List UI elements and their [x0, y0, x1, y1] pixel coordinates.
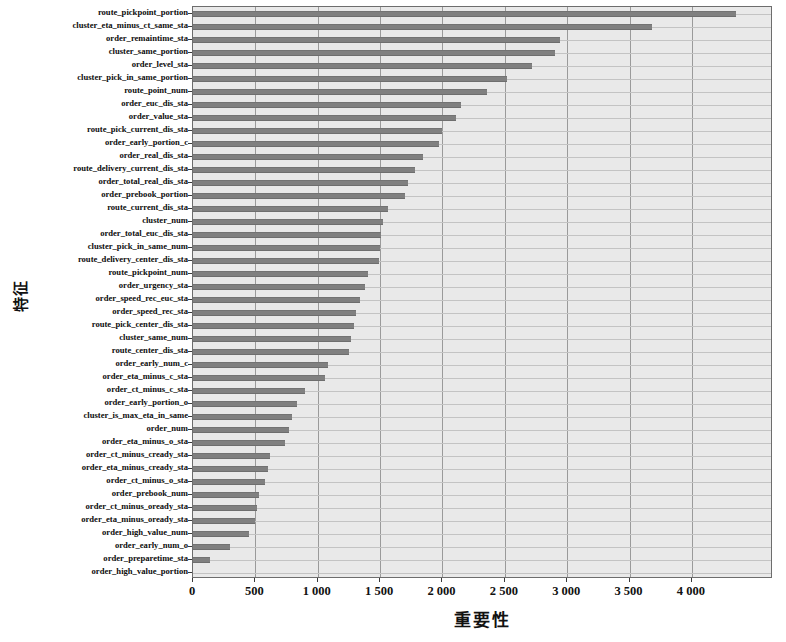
bar: [193, 297, 360, 303]
bar: [193, 453, 270, 459]
y-axis-tick-mark: [188, 260, 192, 261]
y-axis-tick-label: order_level_sta: [28, 60, 188, 69]
x-axis-tick-label: 1 000: [303, 584, 331, 599]
x-axis-tick-label: 1 500: [365, 584, 393, 599]
y-axis-tick-label: order_preparetime_sta: [28, 554, 188, 563]
y-axis-tick-label: route_delivery_current_dis_sta: [28, 164, 188, 173]
bar: [193, 206, 388, 212]
y-axis-tick-mark: [188, 78, 192, 79]
y-axis-tick-label: route_center_dis_sta: [28, 346, 188, 355]
y-axis-tick-mark: [188, 442, 192, 443]
x-axis-tick-mark: [317, 578, 318, 582]
x-axis-ticks: 05001 0001 5002 0002 5003 0003 5004 000: [192, 578, 772, 604]
y-axis-tick-label: cluster_same_num: [28, 333, 188, 342]
y-axis-tick-label: cluster_is_max_eta_in_same: [28, 411, 188, 420]
y-axis-tick-mark: [188, 481, 192, 482]
y-axis-tick-label: cluster_eta_minus_ct_same_sta: [28, 21, 188, 30]
y-axis-tick-mark: [188, 364, 192, 365]
y-axis-tick-label: order_early_num_o: [28, 541, 188, 550]
x-axis-tick-mark: [441, 578, 442, 582]
bar: [193, 11, 736, 17]
y-axis-tick-mark: [188, 52, 192, 53]
bar: [193, 128, 442, 134]
bar: [193, 76, 507, 82]
bar: [193, 37, 560, 43]
y-axis-tick-mark: [188, 195, 192, 196]
bar: [193, 323, 354, 329]
x-axis-tick-label: 0: [189, 584, 195, 599]
bar: [193, 180, 408, 186]
bar: [193, 167, 415, 173]
bar: [193, 310, 356, 316]
x-axis-tick-mark: [192, 578, 193, 582]
x-axis-tick-label: 3 500: [614, 584, 642, 599]
bar: [193, 427, 289, 433]
x-axis-tick-mark: [629, 578, 630, 582]
y-axis-tick-label: order_prebook_portion: [28, 190, 188, 199]
y-axis-tick-label: route_pickpoint_num: [28, 268, 188, 277]
bar: [193, 258, 379, 264]
y-axis-tick-mark: [188, 494, 192, 495]
bar: [193, 336, 351, 342]
bar: [193, 115, 456, 121]
y-axis-tick-label: route_pickpoint_portion: [28, 8, 188, 17]
bar: [193, 193, 405, 199]
bar: [193, 362, 328, 368]
y-axis-tick-mark: [188, 325, 192, 326]
x-axis-tick-label: 2 500: [490, 584, 518, 599]
y-axis-tick-label: order_eta_minus_cready_sta: [28, 463, 188, 472]
bar: [193, 479, 265, 485]
horizontal-gridline: [193, 547, 771, 548]
y-axis-tick-mark: [188, 26, 192, 27]
bar: [193, 440, 285, 446]
y-axis-tick-mark: [188, 286, 192, 287]
bar: [193, 518, 255, 524]
y-axis-tick-label: route_pick_center_dis_sta: [28, 320, 188, 329]
horizontal-gridline: [193, 456, 771, 457]
bar: [193, 531, 249, 537]
bar: [193, 284, 365, 290]
x-axis-tick-mark: [379, 578, 380, 582]
y-axis-tick-label: route_current_dis_sta: [28, 203, 188, 212]
y-axis-tick-label: order_ct_minus_c_sta: [28, 385, 188, 394]
bar: [193, 24, 652, 30]
y-axis-tick-mark: [188, 351, 192, 352]
y-axis-tick-mark: [188, 130, 192, 131]
y-axis-tick-mark: [188, 65, 192, 66]
y-axis-tick-label: order_eta_minus_oready_sta: [28, 515, 188, 524]
y-axis-tick-label: order_eta_minus_o_sta: [28, 437, 188, 446]
y-axis-title-text: 特征: [9, 279, 30, 311]
y-axis-tick-mark: [188, 247, 192, 248]
x-axis-title: 重要性: [192, 606, 772, 631]
y-axis-tick-label: order_eta_minus_c_sta: [28, 372, 188, 381]
y-axis-tick-mark: [188, 416, 192, 417]
bar: [193, 401, 297, 407]
y-axis-tick-label: order_high_value_num: [28, 528, 188, 537]
x-axis-tick-label: 4 000: [677, 584, 705, 599]
y-axis-tick-label: order_ct_minus_oready_sta: [28, 502, 188, 511]
bar-chart-figure: 特征 route_pickpoint_portioncluster_eta_mi…: [0, 0, 786, 642]
y-axis-tick-mark: [188, 156, 192, 157]
y-axis-tick-label: order_ct_minus_o_sta: [28, 476, 188, 485]
bar: [193, 154, 423, 160]
horizontal-gridline: [193, 508, 771, 509]
horizontal-gridline: [193, 495, 771, 496]
x-axis-tick-mark: [504, 578, 505, 582]
x-axis-tick-label: 500: [245, 584, 264, 599]
y-axis-tick-label: order_total_real_dis_sta: [28, 177, 188, 186]
y-axis-tick-mark: [188, 39, 192, 40]
bar: [193, 375, 325, 381]
y-axis-tick-mark: [188, 273, 192, 274]
horizontal-gridline: [193, 560, 771, 561]
y-axis-tick-mark: [188, 117, 192, 118]
bar: [193, 63, 532, 69]
y-axis-tick-mark: [188, 13, 192, 14]
y-axis-tick-label: order_value_sta: [28, 112, 188, 121]
bar: [193, 50, 555, 56]
x-axis-tick-label: 3 000: [552, 584, 580, 599]
y-axis-tick-mark: [188, 429, 192, 430]
y-axis-tick-label: order_high_value_portion: [28, 567, 188, 576]
y-axis-tick-label: order_total_euc_dis_sta: [28, 229, 188, 238]
bar: [193, 219, 383, 225]
y-axis-tick-mark: [188, 221, 192, 222]
